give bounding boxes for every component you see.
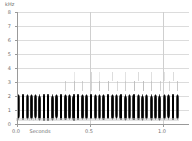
spectrogram-pulse-core: [27, 94, 28, 120]
x-axis-tick-label: 1.0: [158, 128, 166, 134]
spectrogram-pulse-core: [138, 94, 139, 121]
spectrogram-pulse-core: [120, 94, 121, 120]
spectrogram-harmonic-trace: [151, 81, 152, 91]
spectrogram-harmonic-trace: [138, 72, 139, 80]
spectrogram-harmonic-trace: [177, 81, 178, 91]
spectrogram-pulse-core: [22, 94, 23, 120]
spectrogram-harmonic-trace: [82, 81, 83, 91]
spectrogram-harmonic-trace: [112, 72, 113, 80]
y-axis-tick-label: 6: [0, 37, 11, 43]
spectrogram-harmonic-trace: [125, 72, 126, 80]
x-axis-label: Seconds: [30, 128, 51, 134]
spectrogram-pulse-core: [164, 94, 165, 120]
x-axis-tick-mark: [90, 125, 91, 127]
x-axis-tick-label: 0.0: [12, 128, 20, 134]
spectrogram-figure: kHz 876543210 0.00.51.0 Seconds: [0, 0, 192, 141]
spectrogram-pulse-smear: [175, 118, 179, 121]
spectrogram-pulse-core: [129, 94, 130, 120]
spectrogram-harmonic-trace: [65, 81, 66, 91]
spectrogram-harmonic-trace: [117, 81, 118, 91]
y-axis-tick-label: 3: [0, 79, 11, 85]
spectrogram-pulse-core: [151, 94, 152, 121]
spectrogram-harmonic-trace: [74, 81, 75, 91]
spectrogram-pulse-core: [77, 94, 78, 120]
y-axis-tick-label: 5: [0, 51, 11, 57]
spectrogram-pulse-core: [107, 94, 108, 120]
x-axis-tick-mark: [163, 125, 164, 127]
spectrogram-harmonic-trace: [99, 81, 100, 91]
spectrogram-pulse-core: [31, 94, 32, 120]
y-axis-tick-label: 1: [0, 107, 11, 113]
spectrogram-pulse-core: [95, 94, 96, 120]
spectrogram-pulse-core: [65, 94, 66, 121]
spectrogram-pulse-core: [69, 94, 70, 120]
y-axis-unit-label: kHz: [5, 1, 14, 7]
x-axis-line: [17, 124, 190, 125]
spectrogram-pulse-core: [125, 94, 126, 121]
y-axis-line: [17, 12, 18, 125]
x-axis-tick-mark: [17, 125, 18, 127]
spectrogram-harmonic-trace: [160, 81, 161, 91]
spectrogram-pulse-core: [82, 94, 83, 121]
spectrogram-harmonic-trace: [74, 72, 75, 80]
spectrogram-harmonic-trace: [125, 81, 126, 91]
spectrogram-pulse-core: [60, 94, 61, 121]
spectrogram-pulse-core: [90, 94, 91, 120]
y-axis-tick-label: 7: [0, 23, 11, 29]
spectrogram-pulse-core: [73, 94, 74, 121]
spectrogram-harmonic-trace: [99, 72, 100, 80]
spectrogram-pulse-core: [112, 94, 113, 120]
spectrogram-pulse-core: [172, 94, 173, 121]
spectrogram-harmonic-trace: [91, 81, 92, 91]
spectrogram-harmonic-trace: [143, 81, 144, 91]
spectrogram-pulse-core: [43, 94, 44, 121]
spectrogram-harmonic-trace: [108, 81, 109, 91]
spectrogram-harmonic-trace: [169, 81, 170, 91]
spectrogram-harmonic-trace: [164, 72, 165, 80]
y-axis-tick-label: 0: [0, 121, 11, 127]
y-axis-tick-label: 4: [0, 65, 11, 71]
spectrogram-harmonic-trace: [134, 81, 135, 91]
spectrogram-pulse-core: [99, 94, 100, 120]
spectrogram-pulse-core: [133, 94, 134, 121]
spectrogram-pulse-core: [47, 94, 48, 121]
spectrogram-pulse-core: [52, 94, 53, 121]
y-axis-tick-label: 2: [0, 93, 11, 99]
spectrogram-harmonic-trace: [173, 72, 174, 80]
spectrogram-harmonic-trace: [151, 72, 152, 80]
y-axis-tick-label: 8: [0, 9, 11, 15]
spectrogram-pulse-core: [177, 94, 178, 120]
x-axis-tick-label: 0.5: [85, 128, 93, 134]
spectrogram-harmonic-trace: [91, 72, 92, 80]
